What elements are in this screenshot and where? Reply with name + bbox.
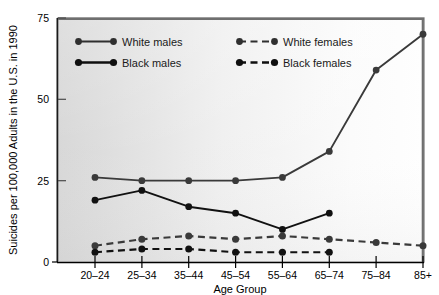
data-point-black-males-5 [326,210,333,217]
data-point-black-females-3 [232,249,239,256]
data-point-white-males-6 [373,67,380,74]
x-tick-label-0: 20–24 [80,269,109,281]
data-point-black-males-0 [92,197,99,204]
data-point-black-males-1 [138,187,145,194]
data-point-black-females-1 [138,245,145,252]
x-tick-label-6: 75–84 [361,269,390,281]
x-tick-label-3: 45–54 [221,269,250,281]
data-point-white-males-2 [185,177,192,184]
plot-background-shading [58,18,424,262]
legend-marker-right [271,38,278,45]
legend-label-black-males: Black males [122,57,182,69]
data-point-black-males-3 [232,210,239,217]
plot-area [58,18,424,262]
y-tick-label-50: 50 [37,93,49,105]
x-tick-label-7: 85+ [414,269,432,281]
legend-marker-right [271,59,278,66]
data-point-white-females-3 [232,236,239,243]
data-point-white-females-0 [92,242,99,249]
suicide-rate-line-chart: 75 50 25 0 Suicides per 100,000 Adults i… [0,0,439,295]
data-point-white-males-7 [420,31,427,38]
y-axis: 75 50 25 0 Suicides per 100,000 Adults i… [7,12,66,268]
legend-label-white-males: White males [122,36,183,48]
data-point-white-females-7 [420,242,427,249]
data-point-black-males-2 [185,203,192,210]
legend-marker-left [75,38,82,45]
x-tick-label-1: 25–34 [127,269,156,281]
y-axis-title: Suicides per 100,000 Adults in the U.S. … [7,25,19,255]
data-point-white-males-4 [279,174,286,181]
x-tick-label-2: 35–44 [174,269,203,281]
x-axis-title: Age Group [213,283,266,295]
legend-label-white-females: White females [283,36,353,48]
data-point-white-males-1 [138,177,145,184]
data-point-white-females-6 [373,239,380,246]
y-tick-label-25: 25 [37,175,49,187]
data-point-black-females-2 [185,245,192,252]
data-point-white-females-1 [138,236,145,243]
legend-marker-left [75,59,82,66]
x-tick-label-4: 55–64 [268,269,297,281]
y-tick-label-75: 75 [37,12,49,24]
data-point-black-females-0 [92,249,99,256]
data-point-black-females-5 [326,249,333,256]
data-point-white-males-5 [326,148,333,155]
legend-marker-right [110,38,117,45]
data-point-white-females-4 [279,232,286,239]
data-point-white-males-3 [232,177,239,184]
data-point-white-females-2 [185,232,192,239]
data-point-black-females-4 [279,249,286,256]
legend-marker-left [236,38,243,45]
data-point-white-males-0 [92,174,99,181]
legend-marker-right [110,59,117,66]
legend-marker-left [236,59,243,66]
data-point-white-females-5 [326,236,333,243]
x-tick-label-5: 65–74 [315,269,344,281]
y-tick-label-0: 0 [43,256,49,268]
data-point-black-males-4 [279,226,286,233]
legend-label-black-females: Black females [283,57,352,69]
chart-svg: 75 50 25 0 Suicides per 100,000 Adults i… [0,0,439,295]
